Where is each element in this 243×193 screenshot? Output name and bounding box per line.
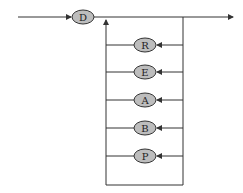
node-d-label: D — [79, 12, 87, 23]
node-r: R — [106, 38, 183, 52]
node-b: B — [106, 121, 183, 135]
node-e-label: E — [141, 67, 148, 78]
node-p: P — [106, 149, 183, 163]
node-b-label: B — [141, 123, 148, 134]
node-d: D — [72, 10, 94, 24]
node-a-label: A — [140, 95, 149, 106]
node-r-label: R — [141, 40, 149, 51]
node-a: A — [106, 93, 183, 107]
syntax-diagram: D R E A B P — [0, 0, 243, 193]
node-p-label: P — [142, 151, 149, 162]
node-e: E — [106, 65, 183, 79]
